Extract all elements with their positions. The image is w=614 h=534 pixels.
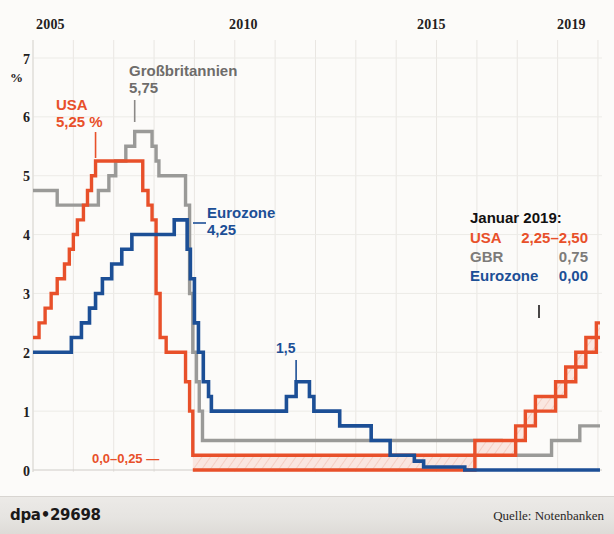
ytick-6: 6	[8, 110, 30, 126]
footer-bar: dpa•29698 Quelle: Notenbanken	[0, 496, 614, 534]
xtick-2005: 2005	[36, 17, 65, 33]
annotation-gbr-line1: Großbritannien	[129, 63, 237, 80]
yaxis-unit-label: %	[10, 70, 23, 86]
annotation-eurozone: Eurozone 4,25	[207, 205, 275, 239]
annotation-gbr-line2: 5,75	[129, 80, 237, 97]
legend-row-gbr: GBR 0,75	[470, 248, 588, 265]
annotation-usa-line1: USA	[56, 97, 103, 114]
xtick-2010: 2010	[229, 17, 258, 33]
legend-title: Januar 2019:	[470, 209, 588, 226]
xtick-2019: 2019	[557, 17, 586, 33]
dpa-credit: dpa•29698	[10, 506, 101, 524]
ytick-4: 4	[8, 228, 30, 244]
ytick-5: 5	[8, 169, 30, 185]
legend-value-eurozone: 0,00	[559, 267, 588, 284]
source-note: Quelle: Notenbanken	[493, 508, 604, 524]
ytick-2: 2	[8, 346, 30, 362]
legend-january-2019: Januar 2019: USA 2,25–2,50 GBR 0,75 Euro…	[470, 209, 588, 284]
ytick-0: 0	[8, 464, 30, 480]
legend-value-gbr: 0,75	[559, 248, 588, 265]
annotation-usa-floor: 0,0–0,25 —	[92, 452, 159, 467]
legend-label-gbr: GBR	[470, 248, 503, 265]
annotation-eurozone-peak: 1,5	[276, 341, 295, 357]
legend-label-eurozone: Eurozone	[470, 267, 538, 284]
ytick-3: 3	[8, 287, 30, 303]
annotation-usa: USA 5,25 %	[56, 97, 103, 131]
annotation-usa-line2: 5,25 %	[56, 114, 103, 131]
ytick-7: 7	[8, 52, 30, 68]
legend-row-usa: USA 2,25–2,50	[470, 229, 588, 246]
ytick-1: 1	[8, 405, 30, 421]
xtick-2015: 2015	[417, 17, 446, 33]
legend-value-usa: 2,25–2,50	[521, 229, 588, 246]
annotation-gbr: Großbritannien 5,75	[129, 63, 237, 97]
legend-label-usa: USA	[470, 229, 502, 246]
legend-row-eurozone: Eurozone 0,00	[470, 267, 588, 284]
annotation-eurozone-line2: 4,25	[207, 222, 275, 239]
annotation-eurozone-line1: Eurozone	[207, 205, 275, 222]
